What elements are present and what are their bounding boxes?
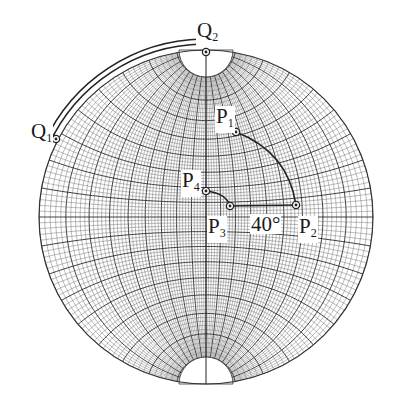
net-grid bbox=[39, 50, 373, 384]
point-q1 bbox=[52, 135, 59, 142]
point-p2 bbox=[292, 201, 299, 208]
label-p3: P3 bbox=[207, 216, 227, 243]
angle-label: 40° bbox=[250, 214, 281, 234]
point-q2 bbox=[202, 48, 209, 55]
label-q2: Q2 bbox=[196, 20, 219, 47]
point-p4 bbox=[202, 187, 209, 194]
label-q1: Q1 bbox=[30, 121, 53, 148]
point-p3 bbox=[226, 202, 233, 209]
label-p1: P1 bbox=[215, 106, 235, 133]
label-p2: P2 bbox=[298, 216, 318, 243]
wulff-net-diagram bbox=[0, 0, 402, 400]
label-p4: P4 bbox=[181, 170, 201, 197]
